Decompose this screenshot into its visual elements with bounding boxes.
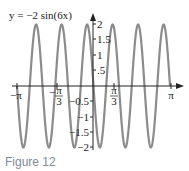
x-tick-label: −	[49, 86, 55, 98]
y-tick-label: −2	[77, 141, 89, 153]
y-tick-label: .5	[97, 64, 106, 76]
x-tick-label: 3	[111, 95, 117, 107]
chart: y = −2 sin(6x) 2 1.5 1 .5 −0.5 −1 −1.5 −…	[0, 0, 189, 171]
y-tick-label: −0.5	[69, 95, 89, 107]
y-tick-label: 1	[97, 49, 103, 61]
x-tick-label: π	[168, 89, 174, 101]
chart-title: y = −2 sin(6x)	[9, 9, 72, 22]
y-tick-label: 1.5	[97, 33, 111, 45]
x-tick-label: 3	[56, 95, 62, 107]
y-tick-label: −1.5	[69, 126, 89, 138]
y-tick-label: 2	[97, 18, 103, 30]
x-tick-label: −π	[10, 89, 22, 101]
x-axis-arrow-icon	[176, 83, 184, 89]
y-axis-arrow-icon	[90, 13, 96, 21]
y-tick-label: −1	[77, 111, 89, 123]
figure-caption: Figure 12	[5, 155, 56, 169]
